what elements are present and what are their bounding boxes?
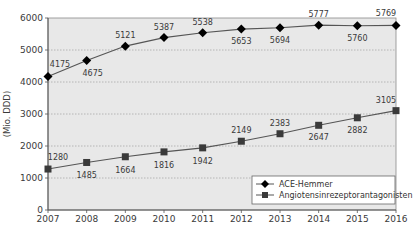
y-tick-label: 6000 [20,13,43,23]
data-label: 5694 [270,36,290,45]
data-label: 5538 [192,18,212,27]
x-tick-label: 2014 [307,214,330,224]
square-marker [83,159,90,166]
data-label: 3105 [376,96,396,105]
y-tick-label: 3000 [20,109,43,119]
square-marker [122,153,129,160]
y-axis-label: (Mio. DDD) [2,91,12,137]
y-tick-label: 4000 [20,77,43,87]
square-icon [262,192,268,198]
data-label: 5121 [115,31,135,40]
x-tick-label: 2011 [191,214,214,224]
x-tick-label: 2013 [269,214,292,224]
square-marker [393,107,400,114]
square-marker [199,144,206,151]
data-label: 1942 [192,157,212,166]
legend-label: ACE-Hemmer [279,180,333,189]
x-tick-label: 2009 [114,214,137,224]
data-label: 5387 [154,23,174,32]
data-label: 1280 [48,153,68,162]
data-label: 1485 [76,171,96,180]
data-label: 5777 [308,10,328,19]
data-label: 4175 [50,60,70,69]
y-tick-label: 5000 [20,45,43,55]
x-tick-label: 2010 [153,214,176,224]
data-label: 5653 [231,37,251,46]
x-tick-label: 2012 [230,214,253,224]
x-tick-label: 2007 [37,214,60,224]
legend-label: Angiotensinrezeptorantagonisten [279,191,412,200]
legend: ACE-HemmerAngiotensinrezeptorantagoniste… [252,176,412,204]
square-marker [45,166,52,173]
x-tick-label: 2015 [346,214,369,224]
y-tick-label: 1000 [20,173,43,183]
data-label: 2647 [308,133,328,142]
data-label: 5760 [347,34,367,43]
data-label: 2882 [347,126,367,135]
square-marker [277,130,284,137]
data-label: 2149 [231,126,251,135]
data-label: 2383 [270,119,290,128]
x-axis-ticks: 2007200820092010201120122013201420152016 [37,210,408,224]
legend-item: Angiotensinrezeptorantagonisten [256,191,412,200]
square-marker [354,114,361,121]
y-tick-label: 2000 [20,141,43,151]
line-chart: 0100020003000400050006000 20072008200920… [0,0,414,232]
data-label: 4675 [82,69,102,78]
square-marker [315,122,322,129]
square-marker [238,138,245,145]
data-label: 5769 [376,9,396,18]
y-axis-ticks: 0100020003000400050006000 [20,13,48,215]
data-label: 1816 [154,161,174,170]
square-marker [161,148,168,155]
data-label: 1664 [115,166,135,175]
x-tick-label: 2016 [385,214,408,224]
x-tick-label: 2008 [75,214,98,224]
